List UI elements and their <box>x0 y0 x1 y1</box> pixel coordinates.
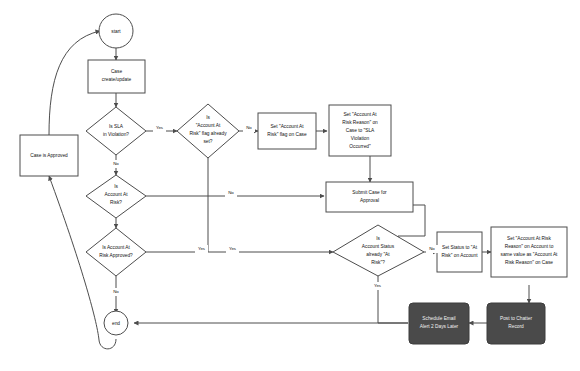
node-approved-label-2: Risk Approved? <box>99 253 133 258</box>
node-is-account-at-risk-approved[interactable]: Is Account At Risk Approved? <box>86 228 146 276</box>
edge-label-status-yes: Yes <box>371 282 384 290</box>
edge-label-aar-flag-no: No <box>243 124 255 132</box>
node-account-status-label-2: Account Status <box>362 244 395 249</box>
node-set-reason-account-label-2: Reason" on Account to <box>505 244 554 249</box>
node-is-account-status-at-risk[interactable]: Is Account Status already "At Risk"? <box>333 225 424 276</box>
node-case-create-update[interactable]: Case create/update <box>88 60 145 93</box>
node-approved-label-1: Is Account At <box>102 245 130 250</box>
node-schedule-email-label-2: Alert 2 Days Later <box>420 324 459 329</box>
flowchart-canvas: start Case create/update Is SLA in Viola… <box>0 0 580 371</box>
node-set-reason-account-label-3: same value as "Account At <box>501 252 559 257</box>
edge-label-approved-yes-right-text: Yes <box>229 246 237 251</box>
node-is-account-at-risk-label-2: Account At <box>105 192 129 197</box>
node-end-label: end <box>112 321 120 326</box>
edge-label-status-no: No <box>426 245 438 253</box>
edge-label-status-yes-text: Yes <box>374 283 382 288</box>
node-aar-flag-label-2: "Account At <box>196 123 221 128</box>
node-start[interactable]: start <box>99 14 133 48</box>
node-case-create-update-label-2: create/update <box>102 77 132 82</box>
node-is-sla-label-1: Is SLA <box>109 124 124 129</box>
node-submit-case-label-1: Submit Case for <box>352 190 387 195</box>
nodes-layer: start Case create/update Is SLA in Viola… <box>20 14 567 344</box>
node-set-aar-reason-account[interactable]: Set "Account At Risk Reason" on Account … <box>491 227 567 277</box>
edge-label-approved-yes-left-text: Yes <box>198 246 206 251</box>
node-is-sla-in-violation[interactable]: Is SLA in Violation? <box>86 107 146 155</box>
edge-label-aar-flag-no-text: No <box>246 125 252 130</box>
node-post-to-chatter[interactable]: Post to Chatter Record <box>487 303 545 344</box>
node-account-status-label-4: Risk"? <box>371 260 385 265</box>
node-set-aar-reason-case-label-4: Violation <box>351 136 370 141</box>
edge-label-account-at-risk-no: No <box>225 189 237 197</box>
edge-label-sla-yes: Yes <box>153 124 166 132</box>
node-submit-case-for-approval[interactable]: Submit Case for Approval <box>326 182 413 212</box>
node-set-aar-reason-case-label-3: Case to "SLA <box>346 128 375 133</box>
node-case-is-approved[interactable]: Case is Approved <box>20 135 78 176</box>
node-set-status-label-1: Set Status to "At <box>442 245 478 250</box>
node-set-aar-reason-case[interactable]: Set "Account At Risk Reason" on Case to … <box>329 105 391 156</box>
node-set-aar-reason-case-label-2: Risk Reason" on <box>342 120 378 125</box>
node-account-status-label-3: already "At <box>366 252 390 257</box>
node-set-aar-reason-case-label-1: Set "Account At <box>343 112 377 117</box>
node-set-reason-account-label-4: Risk Reason" on Case <box>505 260 553 265</box>
node-set-aar-flag-label-2: Risk" flag on Case <box>267 132 307 137</box>
node-is-sla-label-2: in Violation? <box>103 132 129 137</box>
node-case-create-update-label-1: Case <box>111 69 123 74</box>
node-account-status-label-1: Is <box>376 236 380 241</box>
flowchart-svg: start Case create/update Is SLA in Viola… <box>0 0 580 371</box>
node-is-account-at-risk[interactable]: Is Account At Risk? <box>86 175 146 218</box>
edge-label-status-no-text: No <box>429 246 435 251</box>
node-start-label: start <box>111 29 121 34</box>
edge-label-approved-yes-left: Yes <box>195 245 208 253</box>
node-set-reason-account-label-1: Set "Account At Risk <box>507 236 551 241</box>
node-set-status-label-2: Risk" on Account <box>441 253 478 258</box>
node-is-aar-flag-set[interactable]: Is "Account At Risk" flag already set? <box>177 104 239 158</box>
node-aar-flag-label-4: set? <box>203 139 212 144</box>
edge-label-approved-yes-right: Yes <box>226 245 239 253</box>
node-is-account-at-risk-label-3: Risk? <box>110 200 122 205</box>
node-set-aar-flag[interactable]: Set "Account At Risk" flag on Case <box>258 113 316 149</box>
edge-label-sla-yes-text: Yes <box>156 125 164 130</box>
node-schedule-email-label-1: Schedule Email <box>422 316 455 321</box>
node-set-status-at-risk-account[interactable]: Set Status to "At Risk" on Account <box>437 232 482 272</box>
node-submit-case-label-2: Approval <box>360 198 379 203</box>
edge-label-approved-no: No <box>110 288 122 296</box>
node-set-aar-flag-label-1: Set "Account At <box>270 124 304 129</box>
node-set-aar-reason-case-label-5: Occurred" <box>349 144 371 149</box>
node-is-account-at-risk-label-1: Is <box>114 184 118 189</box>
node-end[interactable]: end <box>104 311 128 335</box>
node-post-chatter-label-2: Record <box>508 324 524 329</box>
edge-label-sla-no: No <box>110 160 122 168</box>
node-aar-flag-label-1: Is <box>206 115 210 120</box>
node-aar-flag-label-3: Risk" flag already <box>189 131 227 136</box>
edge-label-approved-no-text: No <box>113 289 119 294</box>
node-case-is-approved-label: Case is Approved <box>30 153 68 158</box>
node-schedule-email-alert[interactable]: Schedule Email Alert 2 Days Later <box>409 303 469 344</box>
edge-label-sla-no-text: No <box>113 161 119 166</box>
edge-label-account-at-risk-no-text: No <box>228 190 234 195</box>
node-post-chatter-label-1: Post to Chatter <box>500 316 532 321</box>
